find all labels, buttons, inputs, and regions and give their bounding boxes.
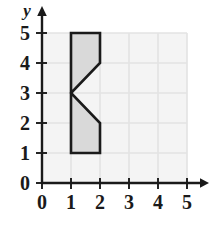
x-tick-label: 3	[124, 191, 134, 213]
x-tick-label: 1	[66, 191, 76, 213]
y-tick-label: 3	[20, 82, 30, 104]
y-tick-label: 0	[20, 172, 30, 194]
y-axis-tick-labels: 012345	[20, 22, 30, 194]
y-axis-arrowhead	[37, 6, 47, 16]
y-tick-label: 5	[20, 22, 30, 44]
x-tick-label: 4	[153, 191, 163, 213]
coordinate-grid-figure: 012345 012345 y	[0, 0, 210, 232]
y-tick-label: 2	[20, 112, 30, 134]
plot-canvas: 012345 012345 y	[0, 0, 210, 232]
y-tick-label: 1	[20, 142, 30, 164]
y-axis-label: y	[21, 1, 31, 20]
y-tick-label: 4	[20, 52, 30, 74]
x-tick-label: 2	[95, 191, 105, 213]
x-tick-label: 0	[37, 191, 47, 213]
grid-background	[42, 33, 187, 183]
x-axis-tick-labels: 012345	[37, 191, 192, 213]
x-axis-arrowhead	[200, 178, 209, 188]
x-tick-label: 5	[182, 191, 192, 213]
